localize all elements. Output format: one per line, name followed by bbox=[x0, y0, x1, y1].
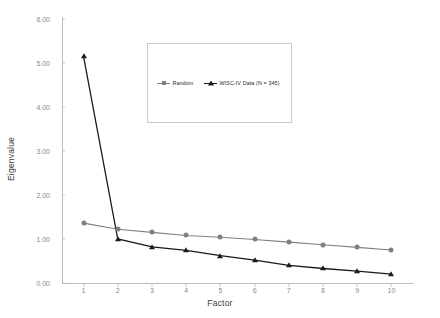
x-tick-label: 8 bbox=[321, 287, 325, 294]
x-tick-mark bbox=[220, 284, 221, 287]
scree-plot-chart: Eigenvalue Factor 0.001.002.003.004.005.… bbox=[0, 0, 440, 318]
legend-line-swatch bbox=[204, 83, 217, 84]
legend-circle-icon bbox=[162, 81, 166, 85]
legend-item: WISC-IV Data (N = 345) bbox=[204, 80, 279, 86]
x-tick-mark bbox=[117, 284, 118, 287]
x-tick-mark bbox=[83, 284, 84, 287]
data-point bbox=[389, 248, 394, 253]
data-point bbox=[81, 54, 87, 59]
x-tick-label: 5 bbox=[218, 287, 222, 294]
x-axis-title: Factor bbox=[0, 298, 440, 308]
legend: RandomWISC-IV Data (N = 345) bbox=[147, 76, 290, 90]
data-point bbox=[388, 271, 394, 276]
y-tick-label: 4.00 bbox=[36, 104, 50, 111]
x-tick-mark bbox=[186, 284, 187, 287]
x-tick-label: 6 bbox=[253, 287, 257, 294]
data-point bbox=[286, 240, 291, 245]
y-tick-label: 2.00 bbox=[36, 192, 50, 199]
data-point bbox=[252, 237, 257, 242]
y-tick-label: 3.00 bbox=[36, 148, 50, 155]
x-tick-label: 1 bbox=[82, 287, 86, 294]
data-point bbox=[183, 248, 189, 253]
x-tick-label: 4 bbox=[184, 287, 188, 294]
data-point bbox=[217, 253, 223, 258]
y-tick-label: 5.00 bbox=[36, 60, 50, 67]
x-tick-mark bbox=[357, 284, 358, 287]
data-point bbox=[115, 227, 120, 232]
x-tick-label: 9 bbox=[355, 287, 359, 294]
legend-label: Random bbox=[172, 80, 193, 86]
data-point bbox=[149, 244, 155, 249]
data-point bbox=[321, 242, 326, 247]
data-point bbox=[355, 245, 360, 250]
y-tick-label: 6.00 bbox=[36, 16, 50, 23]
data-point bbox=[218, 235, 223, 240]
y-axis-title: Eigenvalue bbox=[4, 0, 18, 318]
x-tick-mark bbox=[391, 284, 392, 287]
x-axis-line bbox=[62, 283, 414, 284]
y-tick-label: 0.00 bbox=[36, 280, 50, 287]
legend-triangle-icon bbox=[208, 81, 214, 86]
y-tick-label: 1.00 bbox=[36, 236, 50, 243]
data-point bbox=[320, 266, 326, 271]
data-point bbox=[115, 236, 121, 241]
data-point bbox=[184, 233, 189, 238]
data-point bbox=[354, 268, 360, 273]
x-tick-mark bbox=[151, 284, 152, 287]
legend-line-swatch bbox=[157, 83, 170, 84]
legend-label: WISC-IV Data (N = 345) bbox=[219, 80, 279, 86]
x-tick-label: 2 bbox=[116, 287, 120, 294]
data-point bbox=[149, 230, 154, 235]
x-tick-label: 7 bbox=[287, 287, 291, 294]
y-axis-tick-labels: 0.001.002.003.004.005.006.00 bbox=[22, 0, 50, 318]
series-line bbox=[84, 223, 392, 250]
x-tick-mark bbox=[288, 284, 289, 287]
x-tick-mark bbox=[254, 284, 255, 287]
data-point bbox=[81, 221, 86, 226]
data-point bbox=[252, 257, 258, 262]
x-tick-label: 3 bbox=[150, 287, 154, 294]
x-tick-label: 10 bbox=[388, 287, 396, 294]
x-tick-mark bbox=[323, 284, 324, 287]
data-point bbox=[286, 263, 292, 268]
legend-item: Random bbox=[157, 80, 193, 86]
